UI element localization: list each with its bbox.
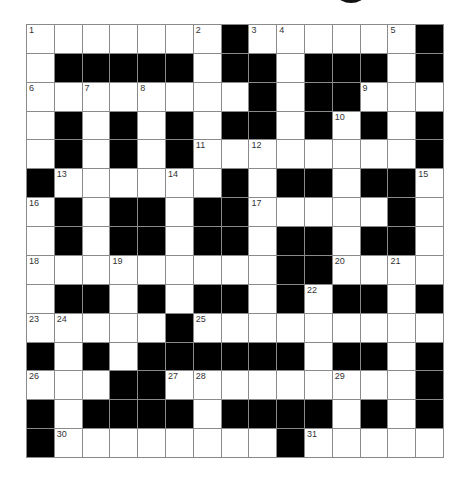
answer-cell[interactable] [361, 429, 388, 457]
answer-cell[interactable] [194, 400, 221, 428]
answer-cell[interactable]: 30 [55, 429, 82, 457]
answer-cell[interactable] [416, 314, 443, 342]
answer-cell[interactable] [194, 83, 221, 111]
answer-cell[interactable]: 27 [166, 371, 193, 399]
answer-cell[interactable] [416, 429, 443, 457]
answer-cell[interactable] [194, 112, 221, 140]
answer-cell[interactable] [333, 314, 360, 342]
answer-cell[interactable] [83, 371, 110, 399]
answer-cell[interactable] [333, 198, 360, 226]
answer-cell[interactable] [110, 429, 137, 457]
answer-cell[interactable]: 23 [27, 314, 54, 342]
answer-cell[interactable] [305, 25, 332, 53]
answer-cell[interactable] [222, 429, 249, 457]
answer-cell[interactable] [277, 314, 304, 342]
answer-cell[interactable]: 20 [333, 256, 360, 284]
answer-cell[interactable] [83, 112, 110, 140]
answer-cell[interactable] [166, 227, 193, 255]
answer-cell[interactable] [249, 314, 276, 342]
answer-cell[interactable]: 24 [55, 314, 82, 342]
answer-cell[interactable]: 8 [138, 83, 165, 111]
answer-cell[interactable] [138, 256, 165, 284]
answer-cell[interactable]: 2 [194, 25, 221, 53]
answer-cell[interactable]: 12 [249, 140, 276, 168]
answer-cell[interactable] [361, 25, 388, 53]
answer-cell[interactable] [277, 140, 304, 168]
answer-cell[interactable] [138, 140, 165, 168]
answer-cell[interactable] [110, 169, 137, 197]
answer-cell[interactable]: 28 [194, 371, 221, 399]
answer-cell[interactable] [27, 227, 54, 255]
answer-cell[interactable] [194, 256, 221, 284]
answer-cell[interactable]: 29 [333, 371, 360, 399]
answer-cell[interactable] [194, 429, 221, 457]
answer-cell[interactable]: 22 [305, 285, 332, 313]
answer-cell[interactable] [166, 83, 193, 111]
answer-cell[interactable] [83, 429, 110, 457]
answer-cell[interactable] [138, 169, 165, 197]
answer-cell[interactable] [166, 198, 193, 226]
answer-cell[interactable] [110, 83, 137, 111]
answer-cell[interactable] [361, 371, 388, 399]
answer-cell[interactable] [388, 314, 415, 342]
answer-cell[interactable] [138, 429, 165, 457]
answer-cell[interactable] [388, 140, 415, 168]
answer-cell[interactable] [416, 198, 443, 226]
answer-cell[interactable] [388, 112, 415, 140]
answer-cell[interactable]: 31 [305, 429, 332, 457]
answer-cell[interactable] [166, 429, 193, 457]
answer-cell[interactable] [138, 112, 165, 140]
answer-cell[interactable] [333, 227, 360, 255]
answer-cell[interactable] [83, 198, 110, 226]
answer-cell[interactable] [194, 54, 221, 82]
answer-cell[interactable]: 19 [110, 256, 137, 284]
answer-cell[interactable] [416, 83, 443, 111]
answer-cell[interactable] [388, 83, 415, 111]
answer-cell[interactable] [277, 371, 304, 399]
answer-cell[interactable] [249, 256, 276, 284]
answer-cell[interactable] [305, 343, 332, 371]
answer-cell[interactable] [55, 371, 82, 399]
answer-cell[interactable] [222, 83, 249, 111]
answer-cell[interactable] [27, 112, 54, 140]
answer-cell[interactable] [110, 343, 137, 371]
answer-cell[interactable]: 7 [83, 83, 110, 111]
answer-cell[interactable]: 4 [277, 25, 304, 53]
answer-cell[interactable] [249, 285, 276, 313]
answer-cell[interactable] [55, 400, 82, 428]
answer-cell[interactable] [55, 25, 82, 53]
answer-cell[interactable] [388, 343, 415, 371]
answer-cell[interactable] [83, 140, 110, 168]
answer-cell[interactable] [305, 140, 332, 168]
answer-cell[interactable]: 14 [166, 169, 193, 197]
answer-cell[interactable] [138, 314, 165, 342]
answer-cell[interactable] [55, 256, 82, 284]
answer-cell[interactable] [222, 371, 249, 399]
answer-cell[interactable] [222, 140, 249, 168]
answer-cell[interactable] [166, 256, 193, 284]
answer-cell[interactable] [388, 54, 415, 82]
answer-cell[interactable] [277, 112, 304, 140]
answer-cell[interactable] [277, 54, 304, 82]
answer-cell[interactable] [249, 371, 276, 399]
answer-cell[interactable] [333, 25, 360, 53]
answer-cell[interactable] [361, 198, 388, 226]
answer-cell[interactable] [361, 256, 388, 284]
answer-cell[interactable] [416, 227, 443, 255]
answer-cell[interactable] [333, 400, 360, 428]
answer-cell[interactable] [388, 285, 415, 313]
answer-cell[interactable] [166, 285, 193, 313]
answer-cell[interactable]: 1 [27, 25, 54, 53]
answer-cell[interactable] [361, 314, 388, 342]
answer-cell[interactable] [305, 198, 332, 226]
answer-cell[interactable] [166, 25, 193, 53]
answer-cell[interactable] [388, 400, 415, 428]
answer-cell[interactable] [55, 343, 82, 371]
answer-cell[interactable]: 21 [388, 256, 415, 284]
answer-cell[interactable]: 11 [194, 140, 221, 168]
answer-cell[interactable]: 16 [27, 198, 54, 226]
answer-cell[interactable] [249, 429, 276, 457]
answer-cell[interactable]: 6 [27, 83, 54, 111]
answer-cell[interactable]: 10 [333, 112, 360, 140]
answer-cell[interactable] [110, 25, 137, 53]
